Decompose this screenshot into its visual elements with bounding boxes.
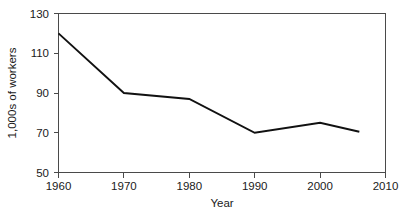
y-axis-tick-labels: 50 70 90 110 130	[30, 8, 49, 179]
x-tick-label-1990: 1990	[242, 180, 268, 192]
x-tick-label-1970: 1970	[111, 180, 137, 192]
y-axis-ticks	[54, 14, 59, 173]
y-tick-label-70: 70	[36, 127, 49, 139]
y-axis-title: 1,000s of workers	[6, 47, 18, 138]
x-tick-label-2010: 2010	[373, 180, 399, 192]
plot-frame	[59, 14, 386, 173]
y-tick-label-90: 90	[36, 87, 49, 99]
x-axis-tick-labels: 1960 1970 1980 1990 2000 2010	[46, 180, 399, 192]
x-axis-title: Year	[210, 197, 233, 209]
y-tick-label-110: 110	[31, 47, 49, 59]
y-tick-label-130: 130	[30, 8, 49, 20]
chart-screenshot: 50 70 90 110 130 1960 1970 1980 1990 200…	[0, 0, 410, 220]
x-tick-label-1980: 1980	[177, 180, 203, 192]
x-axis-ticks	[59, 173, 386, 178]
x-tick-label-2000: 2000	[307, 180, 333, 192]
data-series-line	[59, 33, 360, 132]
y-tick-label-50: 50	[36, 167, 49, 179]
x-tick-label-1960: 1960	[46, 180, 72, 192]
line-chart: 50 70 90 110 130 1960 1970 1980 1990 200…	[0, 0, 410, 220]
